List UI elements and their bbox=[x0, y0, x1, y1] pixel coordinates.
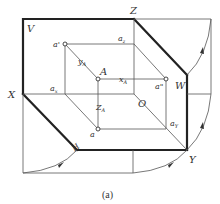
point-a bbox=[96, 127, 100, 131]
label-xA: xA bbox=[119, 75, 128, 85]
label-Y: Y bbox=[189, 154, 197, 165]
label-a: a bbox=[90, 130, 95, 139]
label-a-double-prime: a" bbox=[155, 82, 163, 91]
arrow-icon bbox=[200, 47, 204, 54]
point-A bbox=[96, 77, 100, 81]
label-V: V bbox=[27, 23, 36, 34]
figure-caption: (a) bbox=[102, 189, 113, 201]
z-w-edge bbox=[134, 19, 187, 75]
projection-line-ax-a bbox=[65, 94, 98, 129]
label-X: X bbox=[7, 89, 16, 100]
label-ax: ax bbox=[50, 84, 58, 94]
point-a-prime bbox=[63, 42, 67, 46]
projection-diagram: V Z X W Y O A a' a" a ax az aY yA xA ZA … bbox=[0, 0, 220, 204]
point-a-double-prime bbox=[164, 77, 168, 81]
label-Z: Z bbox=[129, 5, 138, 16]
arrow-icon bbox=[200, 122, 204, 129]
rotation-arc-h-right bbox=[133, 150, 187, 173]
points bbox=[63, 42, 168, 131]
label-zA: ZA bbox=[95, 103, 106, 113]
label-W: W bbox=[175, 80, 186, 91]
rotation-arc-w-top bbox=[187, 19, 211, 75]
label-A: A bbox=[99, 66, 107, 77]
label-a-prime: a' bbox=[53, 40, 60, 49]
label-yA: yA bbox=[77, 57, 87, 67]
x-h-edge bbox=[23, 94, 77, 150]
rotation-arc-h-left bbox=[23, 150, 77, 173]
label-O: O bbox=[138, 98, 146, 109]
label-ay: aY bbox=[170, 119, 179, 129]
rotation-arc-w-bottom bbox=[187, 94, 211, 150]
label-az: az bbox=[118, 34, 126, 44]
